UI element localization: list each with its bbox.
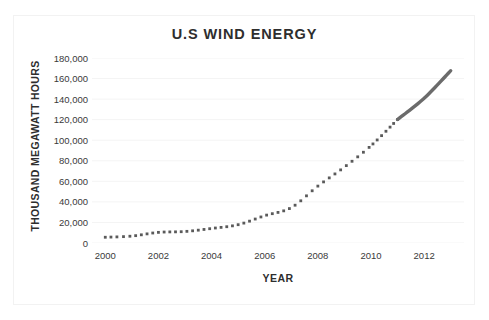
data-point-marker (345, 164, 348, 167)
data-point-marker (362, 151, 365, 154)
data-point-marker (334, 173, 337, 176)
data-point-marker (174, 230, 177, 233)
data-point-marker (163, 231, 166, 234)
data-point-marker (254, 218, 257, 221)
data-series (398, 71, 451, 120)
y-axis-tick-label: 40,000 (36, 196, 88, 207)
data-point-marker (316, 185, 319, 188)
y-axis-tick-label: 0 (36, 238, 88, 249)
data-point-marker (248, 220, 251, 223)
data-point-marker (271, 212, 274, 215)
data-point-marker (389, 126, 392, 129)
data-point-marker (237, 223, 240, 226)
data-point-marker (351, 160, 354, 163)
data-point-marker (116, 235, 119, 238)
chart-screenshot: U.S WIND ENERGY THOUSAND MEGAWATT HOURS … (0, 0, 489, 320)
data-point-marker (191, 229, 194, 232)
data-point-marker (372, 143, 375, 146)
data-point-marker (260, 216, 263, 219)
x-axis-tick-label: 2010 (360, 250, 381, 261)
data-point-marker (214, 227, 217, 230)
x-axis-title: YEAR (92, 272, 464, 284)
data-point-marker (339, 168, 342, 171)
data-point-marker (294, 204, 297, 207)
y-axis-tick-labels: 020,00040,00060,00080,000100,000120,0001… (32, 58, 88, 243)
data-point-marker (151, 232, 154, 235)
data-series (104, 118, 399, 239)
y-axis-tick-label: 140,000 (36, 94, 88, 105)
data-point-marker (356, 155, 359, 158)
data-point-marker (392, 122, 395, 125)
data-point-marker (311, 189, 314, 192)
data-point-marker (385, 130, 388, 133)
data-point-marker (231, 224, 234, 227)
plot-area (92, 58, 464, 243)
data-point-marker (134, 234, 137, 237)
data-point-marker (146, 232, 149, 235)
data-point-marker (220, 226, 223, 229)
data-point-marker (122, 235, 125, 238)
x-axis-tick-label: 2008 (307, 250, 328, 261)
data-point-marker (225, 225, 228, 228)
data-point-marker (368, 146, 371, 149)
y-axis-tick-label: 180,000 (36, 53, 88, 64)
data-point-marker (299, 199, 302, 202)
data-point-marker (305, 194, 308, 197)
data-series-layer (104, 71, 451, 239)
data-point-marker (265, 214, 268, 217)
y-axis-tick-label: 100,000 (36, 135, 88, 146)
x-axis-tick-label: 2006 (254, 250, 275, 261)
x-axis-tick-label: 2004 (201, 250, 222, 261)
data-point-marker (168, 231, 171, 234)
data-point-marker (157, 231, 160, 234)
data-point-marker (380, 134, 383, 137)
data-point-marker (242, 222, 245, 225)
data-point-marker (140, 233, 143, 236)
data-point-marker (328, 176, 331, 179)
chart-canvas (92, 58, 464, 243)
data-point-marker (282, 209, 285, 212)
data-point-marker (197, 229, 200, 232)
x-axis-tick-labels: 2000200220042006200820102012 (92, 250, 464, 266)
x-axis-tick-label: 2000 (95, 250, 116, 261)
data-point-marker (180, 230, 183, 233)
data-point-marker (288, 207, 291, 210)
gridlines (92, 58, 464, 243)
data-point-marker (185, 230, 188, 233)
data-point-marker (110, 236, 113, 239)
y-axis-tick-label: 20,000 (36, 217, 88, 228)
y-axis-tick-label: 160,000 (36, 73, 88, 84)
x-axis-tick-label: 2002 (148, 250, 169, 261)
data-point-marker (277, 211, 280, 214)
data-point-marker (128, 235, 131, 238)
x-axis-tick-label: 2012 (414, 250, 435, 261)
y-axis-tick-label: 80,000 (36, 155, 88, 166)
data-point-marker (104, 236, 107, 239)
data-line (398, 71, 451, 120)
y-axis-tick-label: 120,000 (36, 114, 88, 125)
y-axis-tick-label: 60,000 (36, 176, 88, 187)
data-point-marker (203, 228, 206, 231)
data-point-marker (208, 227, 211, 230)
data-point-marker (322, 180, 325, 183)
chart-title: U.S WIND ENERGY (0, 26, 489, 42)
data-point-marker (376, 139, 379, 142)
